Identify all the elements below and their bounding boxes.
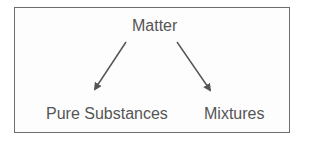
arrow-to-mixtures: [177, 42, 210, 90]
arrow-to-pure-substances: [95, 42, 126, 89]
node-pure-substances: Pure Substances: [46, 105, 168, 123]
node-mixtures: Mixtures: [204, 105, 264, 123]
node-matter: Matter: [132, 17, 177, 35]
